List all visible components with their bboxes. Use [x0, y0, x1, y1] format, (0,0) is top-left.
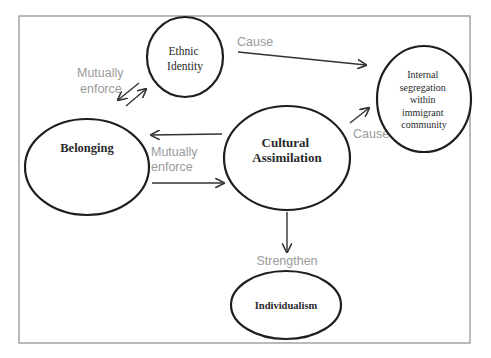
node-individualism: Individualism	[231, 271, 341, 339]
concept-diagram: Cause Cause Mutually enforce Mutually en…	[0, 0, 491, 358]
edge-label-strengthen: Strengthen	[256, 254, 317, 268]
node-belonging-shape	[25, 119, 149, 215]
edge-label-line: Mutually	[77, 66, 124, 80]
node-ethnic-identity: Ethnic Identity	[147, 17, 223, 97]
node-belonging-label: Belonging	[60, 141, 114, 155]
edge-label-line: enforce	[80, 82, 122, 96]
node-ethnic-identity-shape	[147, 17, 223, 97]
arrow-assimilation-to-belonging	[151, 134, 222, 135]
edge-label-cause-right: Cause	[353, 127, 389, 141]
edge-label-cause-top: Cause	[237, 35, 273, 49]
edge-label-line: enforce	[151, 160, 193, 174]
node-belonging: Belonging	[25, 119, 149, 215]
edge-label-line: Mutually	[151, 145, 198, 159]
node-cultural-assimilation: Cultural Assimilation	[224, 106, 350, 210]
node-individualism-label: Individualism	[255, 300, 318, 311]
node-internal-segregation: Internal segregation within immigrant co…	[377, 46, 471, 152]
node-cultural-assimilation-label: Cultural Assimilation	[252, 135, 322, 165]
